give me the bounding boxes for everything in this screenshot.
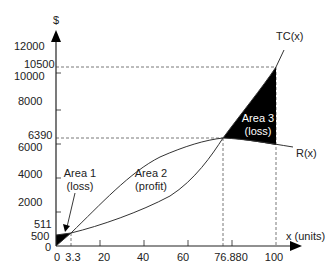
y-ticks <box>56 73 61 212</box>
x-label-3-3: 3.3 <box>65 251 80 263</box>
y-label-12000: 12000 <box>14 40 45 52</box>
y-label-10000: 10000 <box>14 70 45 82</box>
y-label-6390: 6390 <box>28 129 52 141</box>
area2-label: Area 2 <box>135 167 167 179</box>
y-label-6000: 6000 <box>18 141 42 153</box>
x-ticks <box>100 240 232 246</box>
total-cost-curve <box>56 50 284 235</box>
area1-pointer <box>67 193 75 227</box>
y-axis-title: $ <box>53 14 59 26</box>
y-label-4000: 4000 <box>18 168 42 180</box>
x-label-20: 20 <box>98 251 110 263</box>
x-label-76-880: 76.880 <box>214 251 248 263</box>
x-label-100: 100 <box>265 251 283 263</box>
x-label-60: 60 <box>177 251 189 263</box>
x-axis-arrow-icon <box>290 241 302 251</box>
area3-label: Area 3 <box>242 112 274 124</box>
y-label-8000: 8000 <box>18 95 42 107</box>
x-axis-title: x (units) <box>286 230 325 242</box>
r-label: R(x) <box>296 147 317 159</box>
revenue-curve <box>56 138 293 246</box>
area1-arrow-icon <box>63 224 70 232</box>
tc-label: TC(x) <box>276 30 304 42</box>
area1-sublabel: (loss) <box>67 180 94 192</box>
break-even-chart: $ 12000 10500 10000 8000 6390 6000 4000 … <box>0 0 335 274</box>
reference-lines <box>56 67 276 246</box>
x-label-40: 40 <box>137 251 149 263</box>
x-label-0: 0 <box>54 251 60 263</box>
y-axis-arrow-icon <box>51 30 61 42</box>
y-label-2000: 2000 <box>18 196 42 208</box>
y-label-10500: 10500 <box>24 58 55 70</box>
area2-sublabel: (profit) <box>135 180 167 192</box>
area1-label: Area 1 <box>64 167 96 179</box>
y-label-0: 0 <box>45 241 51 253</box>
y-label-511: 511 <box>34 218 52 230</box>
area3-sublabel: (loss) <box>245 125 272 137</box>
